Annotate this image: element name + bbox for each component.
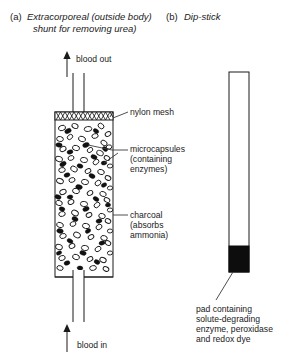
blood-in-arrowhead (63, 324, 70, 332)
blood-out-arrowhead (63, 51, 70, 59)
lower-tube (55, 270, 113, 322)
dipstick-caption-line3: enzyme, peroxidase (196, 324, 273, 334)
microcapsules-label-line1: microcapsules (130, 144, 185, 154)
figure-root: (a) Extracorporeal (outside body) shunt … (0, 0, 291, 363)
dipstick-caption-line1: pad containing (196, 304, 252, 314)
blood-in-arrow (63, 324, 70, 352)
microcapsules-label-line3: enzymes) (130, 164, 167, 174)
dipstick-reagent-pad (229, 246, 249, 272)
dipstick-body (229, 72, 249, 272)
panel-a-letter: (a) (10, 11, 22, 22)
panel-a-title-line2: shunt for removing urea) (33, 23, 137, 34)
dipstick-caption-line2: solute-degrading (196, 314, 260, 324)
charcoal-label-line1: charcoal (130, 210, 163, 220)
nylon-mesh-leader (113, 112, 128, 118)
column-packing (54, 122, 113, 272)
nylon-mesh-band (55, 112, 113, 120)
charcoal-label-line3: ammonia) (130, 230, 168, 240)
upper-tube (73, 73, 84, 113)
panel-b-letter: (b) (166, 11, 178, 22)
blood-out-label: blood out (76, 54, 112, 64)
panel-b: (b) Dip-stick pad containing solute-degr… (166, 11, 273, 344)
nylon-mesh-label: nylon mesh (130, 107, 174, 117)
microcapsules-label-line2: (containing (130, 154, 172, 164)
dipstick-caption-line4: and redox dye (196, 334, 251, 344)
biology-diagram: (a) Extracorporeal (outside body) shunt … (0, 0, 291, 363)
panel-a: (a) Extracorporeal (outside body) shunt … (10, 11, 185, 352)
blood-in-label: blood in (77, 340, 107, 350)
panel-b-title: Dip-stick (184, 11, 222, 22)
dipstick-pad-leader (216, 272, 233, 300)
panel-a-title-line1: Extracorporeal (outside body) (27, 11, 152, 22)
charcoal-label-line2: (absorbs (130, 220, 163, 230)
blood-out-arrow (63, 51, 70, 77)
